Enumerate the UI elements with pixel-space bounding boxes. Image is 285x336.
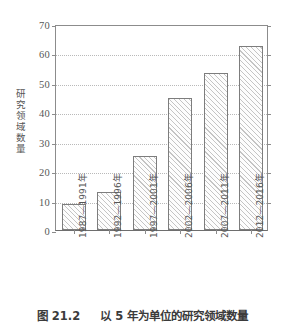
y-tick-mark xyxy=(52,203,56,204)
x-tick-mark xyxy=(216,230,217,234)
figure-bar-chart: 研究领域数量 010203040506070 1987—1991年1992—19… xyxy=(0,0,285,336)
y-tick-mark xyxy=(52,173,56,174)
x-tick-label: 1997—2001年 xyxy=(149,173,159,238)
y-tick-mark xyxy=(52,144,56,145)
y-tick-mark-right xyxy=(267,55,271,56)
y-tick-mark xyxy=(52,232,56,233)
y-tick-mark-right xyxy=(267,114,271,115)
y-tick-mark xyxy=(52,114,56,115)
y-tick-label: 30 xyxy=(39,138,50,149)
gridline xyxy=(56,85,267,86)
y-tick-mark-right xyxy=(267,85,271,86)
y-axis-title: 研究领域数量 xyxy=(14,88,28,154)
gridline xyxy=(56,55,267,56)
y-tick-label: 10 xyxy=(39,197,50,208)
y-tick-mark-right xyxy=(267,144,271,145)
x-tick-mark xyxy=(180,230,181,234)
y-tick-label: 70 xyxy=(39,21,50,32)
x-tick-label: 2007—2011年 xyxy=(220,173,230,238)
x-tick-mark xyxy=(74,230,75,234)
y-tick-mark xyxy=(52,26,56,27)
y-tick-label: 20 xyxy=(39,168,50,179)
y-tick-mark xyxy=(52,85,56,86)
figure-caption: 图 21.2 以 5 年为单位的研究领域数量 xyxy=(0,309,285,323)
y-tick-label: 0 xyxy=(45,227,50,238)
figure-number: 图 21.2 xyxy=(37,309,80,323)
x-tick-label: 1992—1996年 xyxy=(113,173,123,238)
x-tick-mark xyxy=(251,230,252,234)
x-tick-label: 2012—2016年 xyxy=(255,173,265,238)
x-tick-mark xyxy=(109,230,110,234)
y-tick-label: 60 xyxy=(39,50,50,61)
x-tick-mark xyxy=(145,230,146,234)
gridline xyxy=(56,144,267,145)
x-tick-label: 2002—2006年 xyxy=(184,173,194,238)
y-tick-mark-right xyxy=(267,173,271,174)
caption-text: 以 5 年为单位的研究领域数量 xyxy=(100,309,248,323)
y-tick-mark-right xyxy=(267,203,271,204)
y-tick-mark-right xyxy=(267,26,271,27)
x-tick-label: 1987—1991年 xyxy=(78,173,88,238)
y-tick-label: 40 xyxy=(39,109,50,120)
y-tick-mark xyxy=(52,55,56,56)
y-tick-label: 50 xyxy=(39,80,50,91)
gridline xyxy=(56,114,267,115)
